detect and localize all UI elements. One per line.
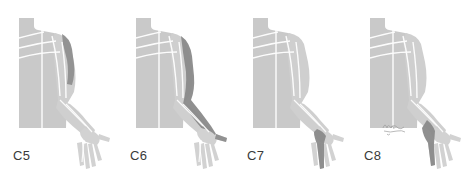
hand-shape — [194, 128, 227, 169]
panel-label-c5: C5 — [13, 148, 30, 163]
dermatome-figure: C5 — [0, 0, 465, 185]
panel-c5: C5 — [0, 0, 117, 185]
panel-label-c6: C6 — [130, 148, 147, 163]
panel-label-c8: C8 — [364, 148, 381, 163]
body-c7 — [253, 18, 344, 169]
panel-c6: C6 — [117, 0, 234, 185]
body-c5 — [19, 18, 110, 169]
body-c8 — [370, 18, 461, 169]
panel-label-c7: C7 — [247, 148, 264, 163]
hand-shape — [77, 128, 110, 169]
dermatome-highlight-c8 — [422, 120, 435, 166]
panel-c7: C7 — [234, 0, 351, 185]
panel-c8: C8 — [351, 0, 465, 185]
body-c6 — [136, 18, 227, 169]
dermatome-highlight-c6 — [181, 36, 216, 140]
dermatome-highlight-c6-thumb — [215, 134, 227, 142]
